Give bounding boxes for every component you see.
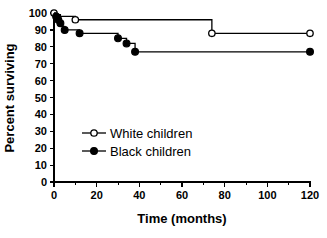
data-marker [209, 30, 215, 36]
y-tick-label: 0 [41, 176, 47, 188]
data-marker [115, 35, 122, 42]
y-tick-label: 100 [29, 7, 47, 19]
y-tick-label: 30 [35, 125, 47, 137]
legend-label-2: Black children [110, 144, 191, 159]
y-tick-label: 60 [35, 75, 47, 87]
y-tick-label: 90 [35, 24, 47, 36]
x-tick-label: 0 [51, 189, 57, 201]
y-tick-label: 10 [35, 159, 47, 171]
x-axis-title: Time (months) [137, 211, 226, 226]
y-tick-label: 20 [35, 142, 47, 154]
y-tick-label: 70 [35, 58, 47, 70]
data-marker [307, 48, 314, 55]
legend-marker-1 [91, 130, 97, 136]
data-marker [72, 17, 78, 23]
data-marker [307, 30, 313, 36]
x-tick-label: 20 [91, 189, 103, 201]
data-marker [132, 48, 139, 55]
x-tick-label: 100 [258, 189, 276, 201]
chart-background [0, 0, 327, 238]
data-marker [57, 20, 64, 27]
survival-chart-figure: 0102030405060708090100 020406080100120 W… [0, 0, 327, 238]
data-marker [123, 40, 130, 47]
x-tick-label: 120 [301, 189, 319, 201]
y-axis-title: Percent surviving [2, 43, 17, 152]
x-tick-label: 60 [176, 189, 188, 201]
data-marker [76, 30, 83, 37]
legend-marker-2 [91, 148, 98, 155]
data-marker [61, 27, 68, 34]
legend-label-1: White children [110, 126, 192, 141]
y-tick-label: 40 [35, 108, 47, 120]
x-tick-label: 40 [133, 189, 145, 201]
kaplan-meier-chart: 0102030405060708090100 020406080100120 W… [0, 0, 327, 238]
y-tick-label: 50 [35, 92, 47, 104]
x-tick-label: 80 [219, 189, 231, 201]
y-tick-label: 80 [35, 41, 47, 53]
